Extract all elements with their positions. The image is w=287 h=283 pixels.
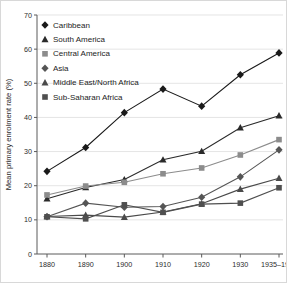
data-point bbox=[160, 210, 166, 216]
legend-marker-icon bbox=[42, 36, 49, 42]
y-tick-label: 0 bbox=[28, 250, 32, 259]
legend-label: South America bbox=[53, 35, 106, 44]
legend-marker-icon bbox=[42, 51, 48, 57]
legend-item[interactable]: South America bbox=[42, 35, 106, 44]
y-tick-label: 50 bbox=[24, 79, 32, 88]
data-point bbox=[276, 137, 282, 143]
data-point bbox=[275, 146, 282, 154]
legend-marker-icon bbox=[41, 64, 48, 72]
y-tick-label: 70 bbox=[24, 11, 32, 20]
data-point bbox=[199, 165, 205, 171]
y-axis: 010203040506070 bbox=[24, 11, 37, 259]
data-point bbox=[199, 201, 205, 207]
data-point bbox=[198, 194, 205, 202]
y-tick-label: 30 bbox=[24, 147, 32, 156]
data-point bbox=[122, 180, 128, 186]
plot-series bbox=[43, 49, 282, 222]
data-point bbox=[160, 171, 166, 177]
data-point bbox=[275, 49, 282, 57]
legend-label: Asia bbox=[53, 64, 69, 73]
series-south-america bbox=[44, 112, 283, 201]
legend-label: Central America bbox=[53, 49, 110, 58]
data-point bbox=[44, 214, 50, 220]
data-point bbox=[43, 168, 50, 176]
series-line bbox=[47, 140, 279, 195]
chart-figure: 010203040506070 188018901900191019201930… bbox=[0, 0, 287, 283]
data-point bbox=[238, 200, 244, 206]
y-tick-label: 60 bbox=[24, 45, 32, 54]
x-tick-label: 1935–1940 bbox=[261, 260, 287, 269]
data-point bbox=[83, 216, 89, 222]
legend-item[interactable]: Central America bbox=[42, 49, 110, 58]
data-point bbox=[82, 199, 89, 207]
legend-item[interactable]: Middle East/North Africa bbox=[42, 78, 140, 87]
data-point bbox=[276, 175, 283, 181]
y-tick-label: 20 bbox=[24, 181, 32, 190]
data-point bbox=[276, 112, 283, 118]
y-axis-title: Mean primary enrolment rate (%) bbox=[4, 78, 13, 190]
data-point bbox=[83, 183, 89, 189]
x-tick-label: 1910 bbox=[155, 260, 171, 269]
legend-label: Sub-Saharan Africa bbox=[53, 93, 123, 102]
legend-item[interactable]: Sub-Saharan Africa bbox=[42, 93, 123, 102]
x-tick-label: 1880 bbox=[39, 260, 55, 269]
legend-label: Caribbean bbox=[53, 21, 90, 30]
data-point bbox=[198, 148, 205, 154]
legend-marker-icon bbox=[41, 21, 48, 29]
data-point bbox=[44, 192, 50, 198]
legend-item[interactable]: Asia bbox=[41, 64, 69, 73]
chart-canvas: 010203040506070 188018901900191019201930… bbox=[1, 1, 287, 283]
data-point bbox=[122, 202, 128, 208]
x-tick-label: 1920 bbox=[194, 260, 210, 269]
y-tick-label: 40 bbox=[24, 113, 32, 122]
legend-marker-icon bbox=[42, 79, 49, 85]
x-tick-label: 1900 bbox=[116, 260, 132, 269]
y-tick-label: 10 bbox=[24, 215, 32, 224]
chart-legend: CaribbeanSouth AmericaCentral AmericaAsi… bbox=[41, 21, 139, 102]
data-point bbox=[159, 85, 166, 93]
x-tick-label: 1890 bbox=[78, 260, 94, 269]
data-point bbox=[276, 185, 282, 191]
legend-marker-icon bbox=[42, 94, 48, 100]
y-axis-title: Mean primary enrolment rate (%) bbox=[4, 78, 13, 190]
data-point bbox=[237, 173, 244, 181]
x-tick-label: 1930 bbox=[232, 260, 248, 269]
legend-label: Middle East/North Africa bbox=[53, 78, 139, 87]
data-point bbox=[238, 152, 244, 158]
x-axis: 1880189019001910192019301935–1940 bbox=[37, 254, 287, 269]
legend-item[interactable]: Caribbean bbox=[41, 21, 90, 30]
